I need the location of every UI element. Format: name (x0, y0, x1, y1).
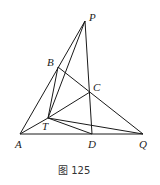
label-D: D (87, 138, 96, 150)
segment-BT (48, 67, 58, 118)
label-T: T (42, 120, 49, 132)
segment-AP (20, 21, 85, 134)
segment-TC (48, 92, 90, 118)
figure-caption: 图 125 (58, 165, 90, 176)
label-C: C (93, 81, 101, 93)
segment-TQ (48, 118, 143, 134)
label-P: P (88, 11, 96, 23)
segment-TD (48, 118, 92, 134)
label-B: B (47, 56, 54, 68)
segment-PT (48, 21, 85, 118)
segment-BQ (58, 67, 143, 134)
label-Q: Q (139, 138, 147, 150)
segment-PD (85, 21, 92, 134)
geometry-figure: P B C T A D Q 图 125 (0, 0, 160, 185)
label-A: A (14, 138, 22, 150)
